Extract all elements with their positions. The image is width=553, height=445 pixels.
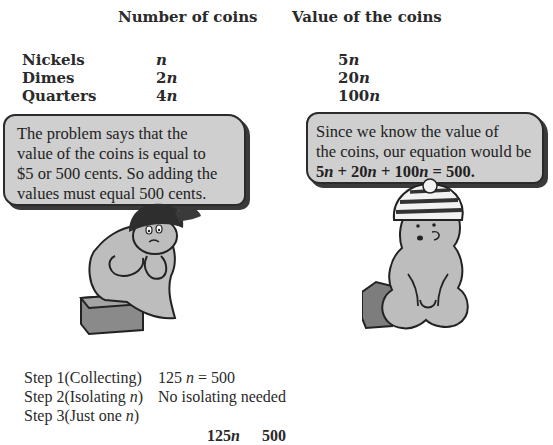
bubble-line: The problem says that the [17, 124, 234, 144]
division-right: 500 [262, 426, 286, 445]
left-speech-bubble: The problem says that the value of the c… [3, 114, 246, 206]
bubble-line: Since we know the value of [316, 122, 532, 142]
value-quarters: 100n [338, 87, 380, 105]
step-2-result: No isolating needed [158, 387, 286, 406]
explaining-character-illustration [362, 178, 492, 340]
step-3-label: Step 3(Just one n) [24, 406, 139, 425]
count-nickels: n [156, 51, 167, 69]
bubble-line: value of the coins is equal to [17, 144, 234, 164]
header-number-of-coins: Number of coins [118, 8, 258, 26]
step-1-result: 125 n = 500 [158, 368, 235, 387]
row-label-dimes: Dimes [22, 69, 75, 87]
division-left: 125n [207, 426, 240, 445]
value-dimes: 20n [338, 69, 370, 87]
step-2-label: Step 2(Isolating n) [24, 387, 143, 406]
count-quarters: 4n [156, 87, 177, 105]
thinking-character-illustration [75, 198, 205, 338]
row-label-quarters: Quarters [22, 87, 96, 105]
header-value-of-coins: Value of the coins [292, 8, 442, 26]
count-dimes: 2n [156, 69, 177, 87]
bubble-line: the coins, our equation would be [316, 142, 532, 162]
value-nickels: 5n [338, 51, 359, 69]
right-speech-bubble: Since we know the value of the coins, ou… [306, 112, 544, 184]
bubble-line: $5 or 500 cents. So adding the [17, 164, 234, 184]
step-1-label: Step 1(Collecting) [24, 368, 142, 387]
row-label-nickels: Nickels [22, 51, 85, 69]
